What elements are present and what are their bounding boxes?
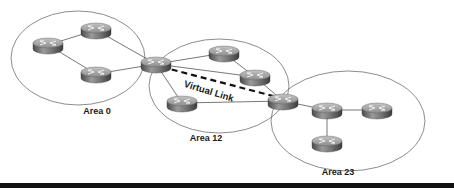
- router-icon: [209, 46, 239, 62]
- router-icon: [240, 70, 270, 86]
- router-icon: [33, 38, 63, 54]
- area-ellipse-area0: [11, 11, 145, 105]
- area-label-area-23: Area 23: [322, 167, 355, 177]
- router-icon: [362, 103, 392, 119]
- network-diagram: Area 0 Area 12 Area 23 Virtual Link: [0, 0, 454, 190]
- router-icon: [141, 57, 171, 73]
- bottom-rule: [0, 183, 454, 188]
- area-ellipse-area23: [271, 71, 425, 171]
- area-label-area-0: Area 0: [83, 106, 111, 116]
- router-icon: [81, 23, 111, 39]
- router-icon: [81, 67, 111, 83]
- router-icon: [268, 94, 298, 110]
- area-label-area-12: Area 12: [190, 133, 223, 143]
- router-icon: [312, 103, 342, 119]
- router-icon: [312, 136, 342, 152]
- router-icon: [167, 96, 197, 112]
